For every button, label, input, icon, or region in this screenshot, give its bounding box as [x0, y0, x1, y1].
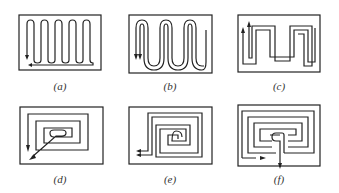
panel-label-d: (d) [30, 173, 90, 185]
panel-e: (e) [110, 95, 230, 193]
panel-a: (a) [0, 0, 120, 96]
panel-label-f: (f) [249, 173, 309, 185]
arrow-down-icon [25, 55, 29, 60]
panel-f: (f) [220, 95, 339, 193]
arrow-up-icon [241, 27, 245, 33]
arrow-down-icon [138, 54, 142, 60]
arrow-down-icon [134, 54, 138, 60]
panel-label-c: (c) [249, 80, 309, 92]
arrow-right-icon [260, 156, 266, 160]
panel-c: (c) [220, 0, 339, 96]
panel-b: (b) [110, 0, 230, 96]
arrow-down-icon [26, 145, 30, 152]
panel-d: (d) [0, 95, 120, 193]
arrow-left-icon [28, 63, 32, 67]
panel-label-b: (b) [140, 80, 200, 92]
panel-label-a: (a) [30, 80, 90, 92]
arrow-left-icon [136, 153, 141, 157]
arrow-left-icon [136, 149, 141, 153]
panel-label-e: (e) [140, 173, 200, 185]
arrow-up-icon [247, 21, 251, 27]
